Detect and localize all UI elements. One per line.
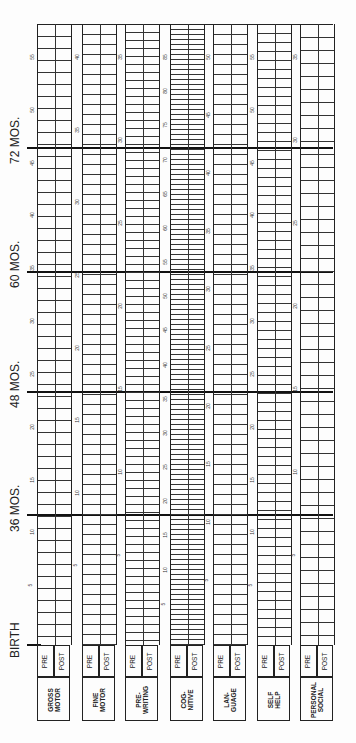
grid-tick	[258, 294, 291, 295]
grid-tick	[301, 271, 334, 272]
grid-tick	[83, 374, 116, 375]
grid-tick	[171, 39, 204, 40]
grid-tick	[214, 624, 247, 625]
grid-tick	[83, 504, 116, 505]
grid-tick	[171, 509, 204, 510]
domain-name-line2: SOCIAL	[317, 678, 324, 722]
grid-tick	[126, 96, 159, 97]
scale-number: 25	[117, 220, 123, 226]
grid-tick	[126, 400, 159, 401]
grid-tick	[126, 512, 159, 513]
grid-tick	[171, 244, 204, 245]
pre-cell-pre-writing[interactable]: PRE	[125, 645, 142, 677]
grid-column-self-help[interactable]	[257, 24, 292, 645]
grid-column-language[interactable]	[213, 24, 248, 645]
pre-cell-gross-motor[interactable]: PRE	[37, 645, 54, 677]
grid-tick	[258, 357, 291, 358]
grid-tick	[38, 324, 71, 325]
grid-tick	[126, 624, 159, 625]
grid-tick	[171, 319, 204, 320]
scale-number: 20	[249, 424, 255, 430]
grid-tick	[258, 168, 291, 169]
grid-tick	[126, 616, 159, 617]
grid-tick	[258, 222, 291, 223]
grid-tick	[171, 594, 204, 595]
grid-tick	[301, 427, 334, 428]
grid-tick	[171, 239, 204, 240]
grid-tick	[126, 256, 159, 257]
grid-tick	[301, 232, 334, 233]
post-cell-self-help[interactable]: POST	[274, 645, 291, 677]
post-cell-language[interactable]: POST	[230, 645, 247, 677]
grid-tick	[126, 344, 159, 345]
grid-tick	[301, 544, 334, 545]
domain-name: GROSSMOTOR	[47, 678, 61, 722]
grid-column-fine-motor[interactable]	[82, 24, 117, 645]
post-cell-cognitive[interactable]: POST	[187, 645, 204, 677]
grid-tick	[126, 408, 159, 409]
grid-tick	[126, 32, 159, 33]
grid-tick	[171, 564, 204, 565]
grid-tick	[171, 524, 204, 525]
grid-tick	[171, 34, 204, 35]
grid-tick	[301, 492, 334, 493]
post-cell-fine-motor[interactable]: POST	[99, 645, 116, 677]
grid-tick	[38, 588, 71, 589]
domain-header-fine-motor: FINEMOTOR	[82, 677, 115, 721]
grid-tick	[171, 379, 204, 380]
grid-tick	[171, 229, 204, 230]
pre-label: PRE	[261, 655, 268, 668]
grid-tick	[83, 554, 116, 555]
post-cell-gross-motor[interactable]: POST	[54, 645, 71, 677]
scale-number: 50	[205, 54, 211, 60]
post-cell-pre-writing[interactable]: POST	[142, 645, 159, 677]
scale-number: 25	[205, 345, 211, 351]
scale-number: 35	[162, 396, 168, 402]
grid-column-personal-social[interactable]	[300, 24, 335, 645]
grid-column-pre-writing[interactable]	[125, 24, 160, 645]
grid-tick	[258, 78, 291, 79]
scale-number: 30	[205, 287, 211, 293]
grid-tick	[258, 33, 291, 34]
pre-cell-self-help[interactable]: PRE	[257, 645, 274, 677]
pre-cell-personal-social[interactable]: PRE	[300, 645, 317, 677]
grid-tick	[126, 288, 159, 289]
grid-tick	[83, 594, 116, 595]
grid-tick	[126, 592, 159, 593]
grid-tick	[38, 540, 71, 541]
grid-tick	[38, 252, 71, 253]
grid-tick	[38, 552, 71, 553]
grid-tick	[83, 454, 116, 455]
grid-tick	[126, 88, 159, 89]
scale-number: 40	[29, 213, 35, 219]
pre-cell-cognitive[interactable]: PRE	[170, 645, 187, 677]
grid-tick	[301, 141, 334, 142]
grid-tick	[171, 329, 204, 330]
grid-tick	[171, 589, 204, 590]
pre-cell-language[interactable]: PRE	[213, 645, 230, 677]
grid-tick	[301, 362, 334, 363]
grid-tick	[126, 472, 159, 473]
grid-tick	[126, 368, 159, 369]
pre-cell-fine-motor[interactable]: PRE	[82, 645, 99, 677]
grid-tick	[171, 439, 204, 440]
grid-tick	[301, 154, 334, 155]
grid-column-gross-motor[interactable]	[37, 24, 72, 645]
grid-tick	[171, 144, 204, 145]
grid-tick	[126, 320, 159, 321]
grid-tick	[258, 555, 291, 556]
scale-number: 5	[72, 564, 78, 567]
grid-tick	[38, 372, 71, 373]
grid-tick	[214, 574, 247, 575]
grid-column-cognitive[interactable]	[170, 24, 205, 645]
grid-tick	[258, 231, 291, 232]
grid-tick	[126, 328, 159, 329]
grid-tick	[171, 514, 204, 515]
age-label-birth: BIRTH	[8, 622, 22, 658]
grid-tick	[126, 480, 159, 481]
scale-number: 30	[117, 137, 123, 143]
grid-tick	[38, 612, 71, 613]
post-cell-personal-social[interactable]: POST	[317, 645, 334, 677]
grid-tick	[214, 514, 247, 515]
grid-tick	[214, 284, 247, 285]
